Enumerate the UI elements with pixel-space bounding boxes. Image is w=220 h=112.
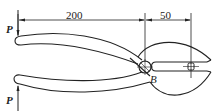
jaws [130,42,211,95]
force-label-lower: P [6,95,13,106]
lower-handle [14,72,150,92]
pivot-label: B [150,74,157,85]
dimension-label-200: 200 [66,10,83,21]
force-label-upper: P [6,24,13,35]
upper-handle [15,34,142,64]
dimension-label-50: 50 [160,10,171,21]
pliers-diagram [0,0,220,112]
